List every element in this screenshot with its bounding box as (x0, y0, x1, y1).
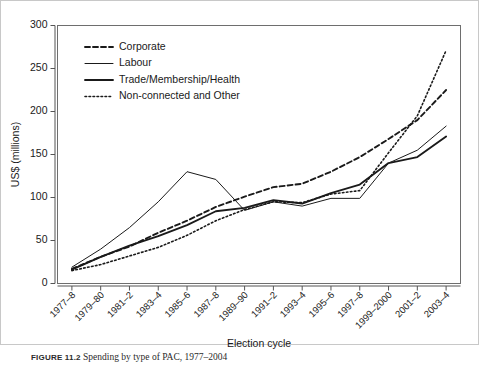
figure-caption: FIGURE 11.2 Spending by type of PAC, 197… (31, 352, 461, 362)
y-tick-label: 200 (30, 104, 48, 116)
plot-frame (58, 26, 461, 284)
chart-area: 050100150200250300US$ (millions)1977–819… (0, 0, 480, 366)
x-tick-label: 1989–90 (216, 289, 250, 323)
caption-label: FIGURE 11.2 (31, 353, 81, 362)
caption-text: Spending by type of PAC, 1977–2004 (83, 352, 227, 362)
x-tick-label: 1993–4 (277, 289, 307, 319)
y-tick-label: 250 (30, 61, 48, 73)
y-tick-label: 0 (42, 276, 48, 288)
x-axis-title: Election cycle (227, 337, 291, 349)
x-tick-label: 1995–6 (306, 289, 336, 319)
x-tick-label: 1991–2 (249, 289, 279, 319)
figure-container: 050100150200250300US$ (millions)1977–819… (0, 0, 480, 366)
x-tick-label: 1979–80 (72, 289, 106, 323)
x-axis: 1977–81979–801981–21983–41985–61987–8198… (47, 286, 460, 331)
y-tick-label: 50 (36, 233, 48, 245)
legend-label: Labour (119, 56, 152, 68)
legend-label: Corporate (119, 40, 166, 52)
x-tick-label: 1983–4 (133, 289, 163, 319)
x-tick-label: 1981–2 (105, 289, 135, 319)
x-tick-label: 1985–6 (162, 289, 192, 319)
legend-label: Trade/Membership/Health (119, 73, 240, 85)
x-tick-label: 2001–2 (393, 289, 423, 319)
x-tick-label: 2003–4 (421, 289, 451, 319)
y-tick-label: 300 (30, 18, 48, 30)
legend-label: Non-connected and Other (119, 89, 240, 101)
y-tick-label: 150 (30, 147, 48, 159)
y-axis: 050100150200250300 (30, 18, 55, 288)
line-chart: 050100150200250300US$ (millions)1977–819… (0, 0, 480, 366)
y-axis-title: US$ (millions) (9, 122, 21, 187)
y-tick-label: 100 (30, 190, 48, 202)
